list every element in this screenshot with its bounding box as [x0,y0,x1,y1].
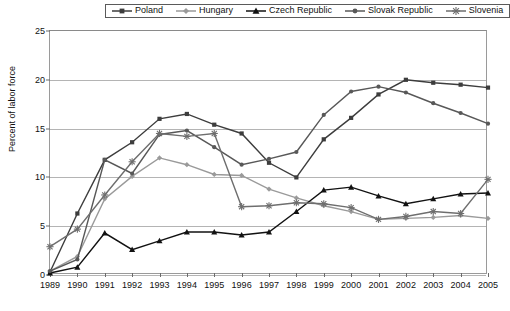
x-tick-label-1996: 1996 [232,280,252,290]
series-lines [50,31,488,275]
x-tick-label-1991: 1991 [95,280,115,290]
y-tick-label-0: 0 [40,270,45,280]
x-tick-label-1992: 1992 [122,280,142,290]
y-tick-label-25: 25 [35,26,45,36]
legend-label: Hungary [199,6,233,15]
y-tick-label-10: 10 [35,172,45,182]
chart-legend: PolandHungaryCzech RepublicSlovak Republ… [105,4,510,18]
gridline-0 [50,275,486,276]
x-tick-label-1989: 1989 [40,280,60,290]
legend-marker-triangle-icon [246,2,266,20]
x-tick-label-2001: 2001 [368,280,388,290]
legend-label: Poland [135,6,163,15]
series-czech-republic [47,184,491,275]
x-tick-label-1990: 1990 [67,280,87,290]
x-tick-label-2002: 2002 [396,280,416,290]
legend-label: Slovenia [469,6,504,15]
series-poland [48,78,490,274]
x-tick-label-2005: 2005 [478,280,498,290]
legend-label: Czech Republic [269,6,332,15]
x-tick-label-1993: 1993 [149,280,169,290]
legend-marker-asterisk-icon [446,2,466,20]
x-tick-label-2000: 2000 [341,280,361,290]
x-tick-label-2003: 2003 [423,280,443,290]
x-tick-label-2004: 2004 [451,280,471,290]
x-tick-label-1998: 1998 [286,280,306,290]
y-tick-label-15: 15 [35,124,45,134]
series-hungary [47,155,490,273]
x-tick-label-1994: 1994 [177,280,197,290]
y-axis-title: Percent of labor force [7,66,17,152]
y-tick-label-5: 5 [40,221,45,231]
x-tick-mark-2005 [488,273,489,277]
x-tick-label-1997: 1997 [259,280,279,290]
legend-marker-circle-icon [345,2,365,20]
series-slovak-republic [48,85,490,274]
x-tick-label-1999: 1999 [314,280,334,290]
legend-item-slovak-republic[interactable]: Slovak Republic [345,2,433,20]
legend-label: Slovak Republic [368,6,433,15]
y-tick-label-20: 20 [35,75,45,85]
legend-item-czech-republic[interactable]: Czech Republic [246,2,332,20]
plot-area: 0510152025 19891990199119921993199419951… [49,30,487,274]
legend-item-poland[interactable]: Poland [112,2,163,20]
x-tick-label-1995: 1995 [204,280,224,290]
legend-item-slovenia[interactable]: Slovenia [446,2,504,20]
legend-item-hungary[interactable]: Hungary [176,2,233,20]
legend-marker-square-icon [112,2,132,20]
legend-marker-diamond-icon [176,2,196,20]
